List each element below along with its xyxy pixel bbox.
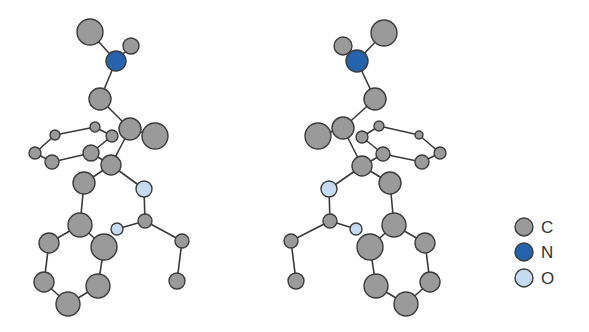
nitrogen-atom-icon [106, 51, 126, 71]
carbon-atom-icon [86, 274, 110, 298]
carbon-atom-icon [101, 155, 121, 175]
carbon-atom-icon [175, 234, 189, 248]
carbon-atom-icon [29, 147, 41, 159]
carbon-atom-icon [89, 88, 111, 110]
oxygen-atom-icon [136, 181, 152, 197]
carbon-atom-icon [50, 130, 60, 140]
left-molecule [29, 19, 189, 316]
carbon-atom-icon [379, 172, 401, 194]
carbon-atom-icon [91, 234, 117, 260]
legend-item-nitrogen: N [515, 243, 553, 262]
legend-item-carbon: C [515, 218, 553, 237]
right-atoms [284, 20, 446, 316]
carbon-atom-icon [90, 122, 100, 132]
legend: C N O [515, 218, 554, 288]
legend-label-nitrogen: N [541, 243, 553, 262]
carbon-atom-icon [364, 88, 386, 110]
nitrogen-atom-icon [346, 50, 368, 72]
left-atoms [29, 19, 189, 316]
legend-item-oxygen: O [515, 269, 554, 288]
carbon-atom-icon [56, 292, 80, 316]
oxygen-atom-icon [321, 181, 337, 197]
carbon-atom-icon [357, 234, 383, 260]
carbon-atom-icon [169, 273, 185, 289]
molecule-diagram: C N O [0, 0, 589, 332]
carbon-atom-icon [323, 214, 337, 228]
oxygen-swatch-icon [515, 269, 533, 287]
carbon-atom-icon [382, 213, 406, 237]
carbon-atom-icon [288, 273, 304, 289]
carbon-atom-icon [39, 233, 59, 253]
carbon-atom-icon [73, 172, 95, 194]
carbon-atom-icon [415, 233, 435, 253]
carbon-atom-icon [119, 118, 141, 140]
carbon-atom-icon [284, 234, 298, 248]
carbon-atom-icon [371, 20, 397, 46]
oxygen-atom-icon [111, 223, 123, 235]
carbon-atom-icon [394, 292, 418, 316]
legend-label-carbon: C [541, 218, 553, 237]
carbon-atom-icon [364, 274, 388, 298]
carbon-atom-icon [415, 131, 423, 139]
carbon-atom-icon [34, 272, 54, 292]
bond-line [379, 126, 419, 135]
carbon-atom-icon [420, 272, 440, 292]
carbon-atom-icon [305, 123, 331, 149]
carbon-atom-icon [68, 213, 92, 237]
carbon-atom-icon [106, 130, 118, 142]
carbon-atom-icon [83, 145, 99, 161]
carbon-atom-icon [123, 38, 139, 54]
carbon-atom-icon [374, 121, 384, 131]
carbon-atom-icon [376, 147, 390, 161]
right-molecule [284, 20, 446, 316]
carbon-atom-icon [138, 214, 152, 228]
oxygen-atom-icon [350, 223, 362, 235]
nitrogen-swatch-icon [515, 243, 533, 261]
legend-label-oxygen: O [541, 269, 554, 288]
carbon-atom-icon [45, 155, 59, 169]
bond-line [55, 127, 95, 135]
carbon-atom-icon [415, 155, 429, 169]
carbon-atom-icon [332, 117, 354, 139]
carbon-atom-icon [434, 147, 446, 159]
carbon-atom-icon [142, 123, 168, 149]
carbon-atom-icon [356, 131, 368, 143]
carbon-atom-icon [77, 19, 103, 45]
carbon-atom-icon [352, 156, 372, 176]
carbon-swatch-icon [515, 218, 533, 236]
